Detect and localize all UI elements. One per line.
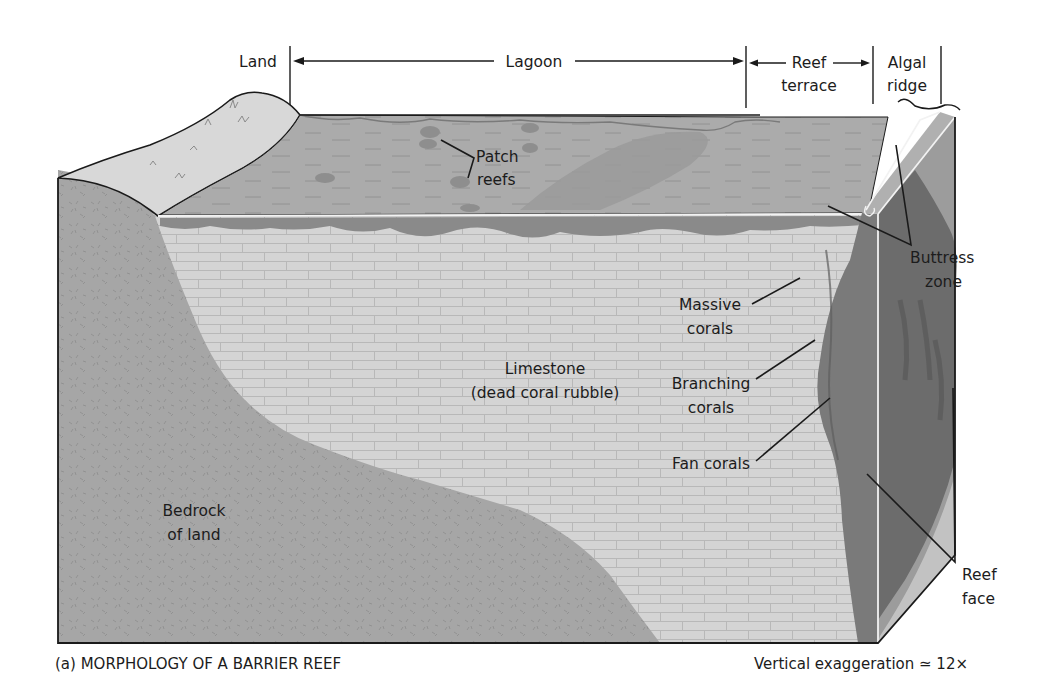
- figure-caption: (a) MORPHOLOGY OF A BARRIER REEF: [55, 655, 341, 673]
- zone-label-algal-ridge-2: ridge: [887, 77, 927, 95]
- label-bedrock-1: Bedrock: [162, 502, 225, 520]
- label-branching-corals-2: corals: [688, 399, 734, 417]
- label-branching-corals-1: Branching: [672, 375, 751, 393]
- zone-label-lagoon: Lagoon: [506, 53, 563, 71]
- label-limestone-1: Limestone: [505, 360, 586, 378]
- block-diagram: Patch reefs Limestone (dead coral rubble…: [58, 92, 997, 643]
- label-bedrock-2: of land: [167, 526, 220, 544]
- zone-label-reef-terrace-2: terrace: [781, 77, 837, 95]
- label-patch-reefs-2: reefs: [477, 171, 516, 189]
- label-limestone-2: (dead coral rubble): [471, 384, 620, 402]
- label-reef-face-1: Reef: [962, 566, 997, 584]
- label-buttress-zone-1: Buttress: [910, 249, 974, 267]
- zone-header: Land Lagoon Reef terrace Algal ridge: [239, 46, 941, 108]
- label-patch-reefs-1: Patch: [476, 148, 519, 166]
- zone-label-algal-ridge-1: Algal: [888, 54, 927, 72]
- label-reef-face-2: face: [962, 590, 995, 608]
- label-massive-corals-1: Massive: [679, 296, 741, 314]
- vertical-exaggeration-note: Vertical exaggeration ≃ 12×: [754, 655, 968, 673]
- label-massive-corals-2: corals: [687, 320, 733, 338]
- zone-label-land: Land: [239, 53, 277, 71]
- zone-label-reef-terrace-1: Reef: [792, 54, 827, 72]
- barrier-reef-diagram: Land Lagoon Reef terrace Algal ridge: [0, 0, 1054, 696]
- label-buttress-zone-2: zone: [925, 273, 962, 291]
- label-fan-corals: Fan corals: [672, 455, 750, 473]
